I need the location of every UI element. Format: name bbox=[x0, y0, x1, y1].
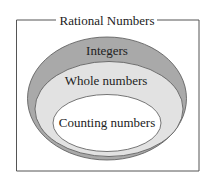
whole-numbers-label: Whole numbers bbox=[65, 73, 148, 88]
rational-numbers-label: Rational Numbers bbox=[60, 13, 155, 28]
integers-label: Integers bbox=[86, 43, 128, 58]
rational-numbers-diagram: Rational Numbers Integers Whole numbers … bbox=[0, 0, 209, 184]
counting-numbers-label: Counting numbers bbox=[59, 115, 155, 130]
